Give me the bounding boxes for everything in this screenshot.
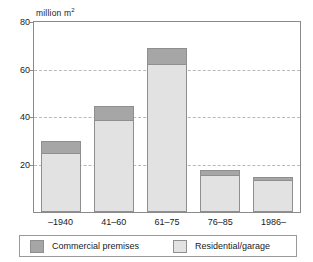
bar-segment-commercial[interactable] — [147, 48, 187, 63]
y-axis-unit-superscript: 2 — [71, 7, 75, 13]
bar-segment-residential[interactable] — [253, 180, 293, 212]
x-axis-tick-label: 1986– — [261, 217, 286, 227]
legend-item-residential-garage[interactable]: Residential/garage — [173, 236, 270, 256]
bar-group[interactable] — [200, 22, 240, 212]
bar-group[interactable] — [253, 22, 293, 212]
legend-label-residential: Residential/garage — [195, 241, 270, 251]
chart-legend: Commercial premises Residential/garage — [19, 235, 297, 257]
y-axis-unit-text: million m — [36, 8, 71, 18]
y-axis-tickmark-60 — [30, 70, 34, 71]
bar-group[interactable] — [94, 22, 134, 212]
legend-swatch-commercial-icon — [30, 240, 44, 253]
bar-group[interactable] — [147, 22, 187, 212]
bar-segment-commercial[interactable] — [94, 106, 134, 120]
legend-swatch-residential-icon — [173, 240, 187, 253]
bar-segment-residential[interactable] — [41, 153, 81, 212]
bar-group[interactable] — [41, 22, 81, 212]
bar-segment-residential[interactable] — [94, 120, 134, 212]
x-axis-tick-label: 76–85 — [208, 217, 233, 227]
y-axis-unit-label: million m2 — [36, 8, 75, 18]
plot-inner: 20406080 — [34, 22, 300, 212]
x-axis-tick-label: –1940 — [48, 217, 73, 227]
bar-segment-residential[interactable] — [147, 64, 187, 212]
bar-segment-commercial[interactable] — [41, 141, 81, 153]
x-axis-tick-label: 41–60 — [101, 217, 126, 227]
y-axis-tickmark-40 — [30, 117, 34, 118]
chart-container: million m2 20406080 –194041–6061–7576–85… — [0, 0, 313, 262]
plot-area: 20406080 — [33, 21, 301, 213]
bar-segment-residential[interactable] — [200, 175, 240, 212]
y-axis-tickmark-20 — [30, 165, 34, 166]
y-axis-tickmark-80 — [30, 22, 34, 23]
legend-item-commercial-premises[interactable]: Commercial premises — [30, 236, 139, 256]
x-axis-tick-label: 61–75 — [154, 217, 179, 227]
legend-label-commercial: Commercial premises — [52, 241, 139, 251]
